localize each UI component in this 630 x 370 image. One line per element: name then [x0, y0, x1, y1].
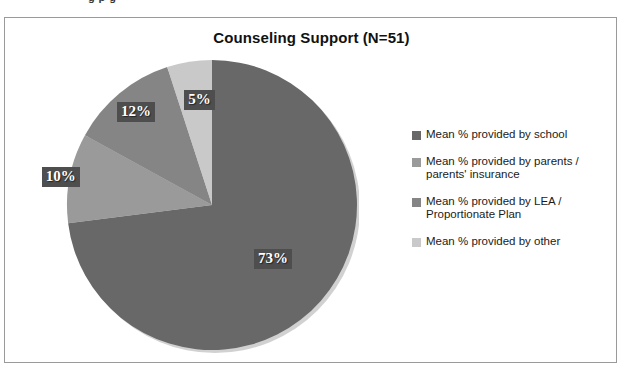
pie-slice-value-label: 5% [184, 90, 215, 110]
legend-item: Mean % provided by school [412, 128, 612, 142]
legend-item: Mean % provided by parents / parents' in… [412, 155, 612, 182]
pie-slice-value-label: 73% [254, 249, 292, 269]
legend-item: Mean % provided by other [412, 235, 612, 249]
pie-slice-value-label: 10% [42, 167, 80, 187]
legend-item-label: Mean % provided by LEA / Proportionate P… [426, 195, 562, 222]
legend: Mean % provided by schoolMean % provided… [412, 128, 612, 261]
legend-item-label: Mean % provided by other [426, 235, 560, 249]
chart-page: g p g Counseling Support (N=51) 73%10%12… [0, 0, 630, 370]
cut-off-caption-bleed: g p g [0, 0, 630, 8]
legend-swatch-icon [412, 158, 421, 167]
legend-item-label: Mean % provided by parents / parents' in… [426, 155, 579, 182]
legend-swatch-icon [412, 131, 421, 140]
legend-swatch-icon [412, 198, 421, 207]
chart-frame: Counseling Support (N=51) 73%10%12%5% Me… [4, 17, 617, 363]
legend-item-label: Mean % provided by school [426, 128, 567, 142]
pie-slice-value-label: 12% [117, 102, 155, 122]
legend-swatch-icon [412, 238, 421, 247]
legend-item: Mean % provided by LEA / Proportionate P… [412, 195, 612, 222]
page-title: Counseling Support (N=51) [5, 29, 618, 46]
pie-chart: 73%10%12%5% [63, 56, 359, 356]
cut-off-caption-text: g p g [88, 0, 116, 3]
